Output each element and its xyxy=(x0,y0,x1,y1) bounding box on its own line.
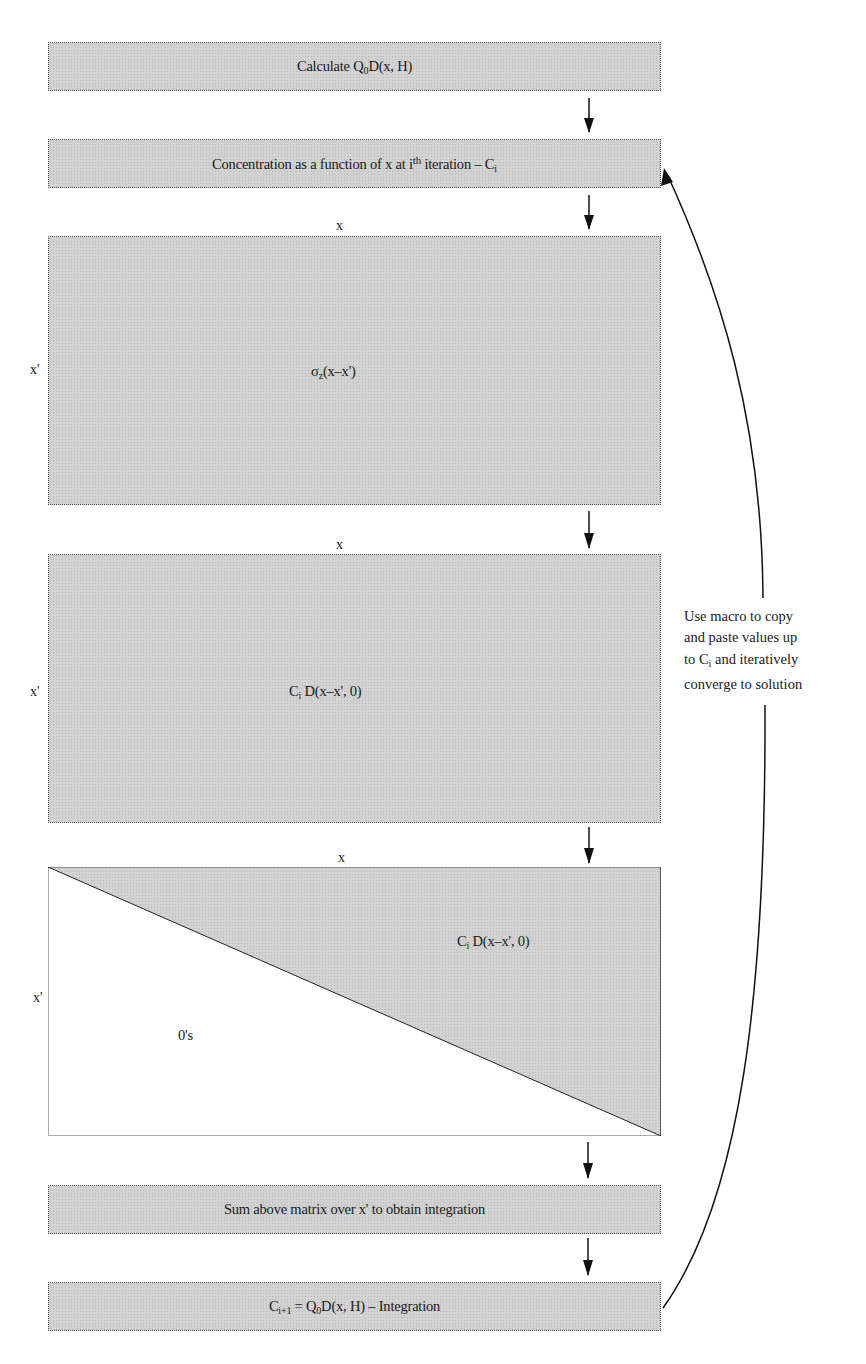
down-arrow-icon xyxy=(583,1142,593,1179)
down-arrow-icon xyxy=(584,98,594,133)
down-arrow-icon xyxy=(584,827,594,864)
down-arrow-icon xyxy=(584,195,594,230)
feedback-loop-arrow xyxy=(663,705,765,1308)
down-arrow-icon xyxy=(584,511,594,549)
feedback-loop-arrow xyxy=(668,176,763,598)
arrows-layer xyxy=(0,0,866,1364)
down-arrow-icon xyxy=(583,1238,593,1276)
